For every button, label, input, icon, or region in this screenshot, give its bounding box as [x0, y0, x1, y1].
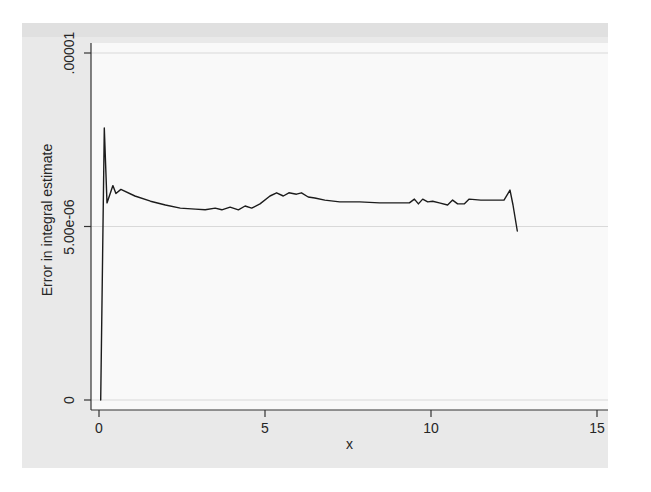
plot-canvas	[0, 0, 651, 492]
x-tick-label-5: 5	[261, 421, 269, 435]
y-tick-label-0: 0	[62, 396, 76, 404]
error-series-line	[101, 128, 518, 400]
figure-page: Error in integral estimate 0 5.00e-06 .0…	[0, 0, 651, 492]
x-axis-title: x	[346, 437, 353, 451]
x-tick-label-10: 10	[423, 421, 439, 435]
x-tick-label-15: 15	[589, 421, 605, 435]
y-tick-label-5e-06: 5.00e-06	[62, 199, 76, 254]
x-tick-label-0: 0	[95, 421, 103, 435]
y-tick-label-00001: .00001	[62, 32, 76, 75]
y-axis-title: Error in integral estimate	[40, 144, 54, 297]
